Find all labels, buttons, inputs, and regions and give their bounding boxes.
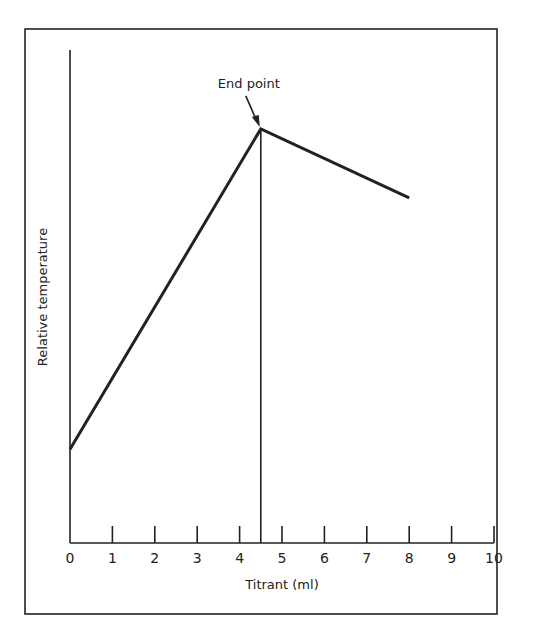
arrow-icon	[246, 96, 260, 127]
x-ticks	[112, 526, 494, 543]
end-point-label: End point	[218, 76, 280, 91]
y-axis-label: Relative temperature	[35, 228, 50, 366]
x-tick-label: 2	[150, 550, 159, 566]
x-tick-label: 8	[405, 550, 414, 566]
x-tick-label: 3	[193, 550, 202, 566]
x-tick-label: 9	[447, 550, 456, 566]
x-tick-label: 6	[320, 550, 329, 566]
x-tick-label: 10	[485, 550, 503, 566]
x-tick-label: 1	[108, 550, 117, 566]
x-tick-label: 7	[362, 550, 371, 566]
titration-chart: 012345678910 End point Titrant (ml) Rela…	[0, 0, 552, 642]
x-tick-labels: 012345678910	[66, 550, 503, 566]
x-axis-label: Titrant (ml)	[244, 577, 318, 592]
data-line	[70, 129, 409, 449]
x-tick-label: 4	[235, 550, 244, 566]
x-tick-label: 0	[66, 550, 75, 566]
x-tick-label: 5	[278, 550, 287, 566]
